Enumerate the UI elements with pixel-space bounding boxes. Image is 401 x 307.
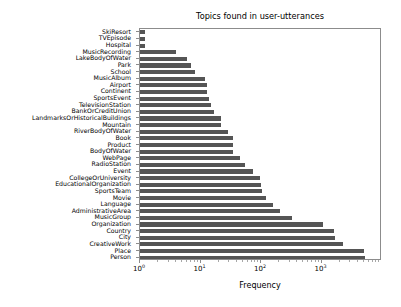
y-tick-mark <box>136 51 139 52</box>
x-tick-minor-mark <box>236 260 237 262</box>
x-tick-minor-mark <box>363 260 364 262</box>
bar <box>140 222 323 226</box>
y-tick-mark <box>136 210 139 211</box>
x-tick-minor-mark <box>357 260 358 262</box>
y-tick-mark <box>136 31 139 32</box>
bar <box>140 216 292 220</box>
y-tick-mark <box>136 190 139 191</box>
bar <box>140 63 191 67</box>
y-tick-mark <box>136 217 139 218</box>
x-tick-minor-mark <box>375 260 376 262</box>
bar <box>140 189 262 193</box>
bar <box>140 50 176 54</box>
x-tick-minor-mark <box>190 260 191 262</box>
bar <box>140 83 207 87</box>
x-tick-minor-mark <box>315 260 316 262</box>
chart-figure: Topics found in user-utterances SkiResor… <box>0 0 401 307</box>
y-tick-mark <box>136 177 139 178</box>
y-tick-mark <box>136 171 139 172</box>
x-axis-title: Frequency <box>139 281 381 290</box>
x-tick-minor-mark <box>157 260 158 262</box>
y-tick-mark <box>136 230 139 231</box>
x-tick-minor-mark <box>296 260 297 262</box>
chart-title: Topics found in user-utterances <box>139 11 381 21</box>
y-tick-mark <box>136 250 139 251</box>
x-tick-minor-mark <box>278 260 279 262</box>
y-tick-mark <box>136 243 139 244</box>
x-tick-minor-mark <box>194 260 195 262</box>
bar <box>140 44 145 48</box>
x-axis-tick-label: 101 <box>194 265 206 273</box>
bar <box>140 209 280 213</box>
bar <box>140 196 266 200</box>
x-tick-minor-mark <box>289 260 290 262</box>
y-tick-mark <box>136 104 139 105</box>
y-tick-mark <box>136 124 139 125</box>
bar <box>140 163 245 167</box>
x-tick-minor-mark <box>168 260 169 262</box>
x-axis-tick-label: 102 <box>254 265 266 273</box>
bar <box>140 97 209 101</box>
x-tick-minor-mark <box>302 260 303 262</box>
x-tick-minor-mark <box>368 260 369 262</box>
y-tick-mark <box>136 204 139 205</box>
bar <box>140 156 240 160</box>
x-tick-minor-mark <box>181 260 182 262</box>
bar <box>140 229 334 233</box>
x-tick-minor-mark <box>339 260 340 262</box>
x-tick-minor-mark <box>254 260 255 262</box>
bar <box>140 242 343 246</box>
x-tick-mark <box>200 260 201 263</box>
bar <box>140 37 145 41</box>
y-tick-mark <box>136 91 139 92</box>
y-tick-mark <box>136 184 139 185</box>
bar <box>140 116 221 120</box>
y-tick-mark <box>136 197 139 198</box>
x-tick-minor-mark <box>349 260 350 262</box>
x-tick-mark <box>321 260 322 263</box>
x-tick-minor-mark <box>311 260 312 262</box>
y-tick-mark <box>136 237 139 238</box>
x-tick-minor-mark <box>251 260 252 262</box>
bar <box>140 143 233 147</box>
x-axis-tick-label: 103 <box>315 265 327 273</box>
x-tick-minor-mark <box>218 260 219 262</box>
bar <box>140 130 228 134</box>
y-tick-mark <box>136 38 139 39</box>
bar <box>140 136 233 140</box>
bar <box>140 70 195 74</box>
y-tick-mark <box>136 137 139 138</box>
x-tick-minor-mark <box>247 260 248 262</box>
x-tick-mark <box>139 260 140 263</box>
x-tick-minor-mark <box>257 260 258 262</box>
bar <box>140 183 261 187</box>
y-tick-mark <box>136 98 139 99</box>
y-tick-mark <box>136 111 139 112</box>
y-tick-mark <box>136 71 139 72</box>
bar <box>140 57 187 61</box>
y-tick-mark <box>136 164 139 165</box>
y-tick-mark <box>136 117 139 118</box>
x-tick-minor-mark <box>228 260 229 262</box>
y-tick-mark <box>136 45 139 46</box>
y-tick-mark <box>136 78 139 79</box>
x-axis-tick-label: 100 <box>133 265 145 273</box>
y-tick-mark <box>136 144 139 145</box>
y-tick-mark <box>136 84 139 85</box>
y-tick-mark <box>136 224 139 225</box>
bar <box>140 123 221 127</box>
x-tick-minor-mark <box>175 260 176 262</box>
x-tick-minor-mark <box>242 260 243 262</box>
x-tick-minor-mark <box>318 260 319 262</box>
bar <box>140 249 364 253</box>
x-tick-minor-mark <box>186 260 187 262</box>
y-tick-mark <box>136 64 139 65</box>
x-tick-minor-mark <box>307 260 308 262</box>
x-tick-mark <box>260 260 261 263</box>
x-tick-minor-mark <box>378 260 379 262</box>
bar <box>140 110 214 114</box>
bar <box>140 150 233 154</box>
bar <box>140 236 335 240</box>
y-tick-mark <box>136 257 139 258</box>
bar <box>140 203 273 207</box>
